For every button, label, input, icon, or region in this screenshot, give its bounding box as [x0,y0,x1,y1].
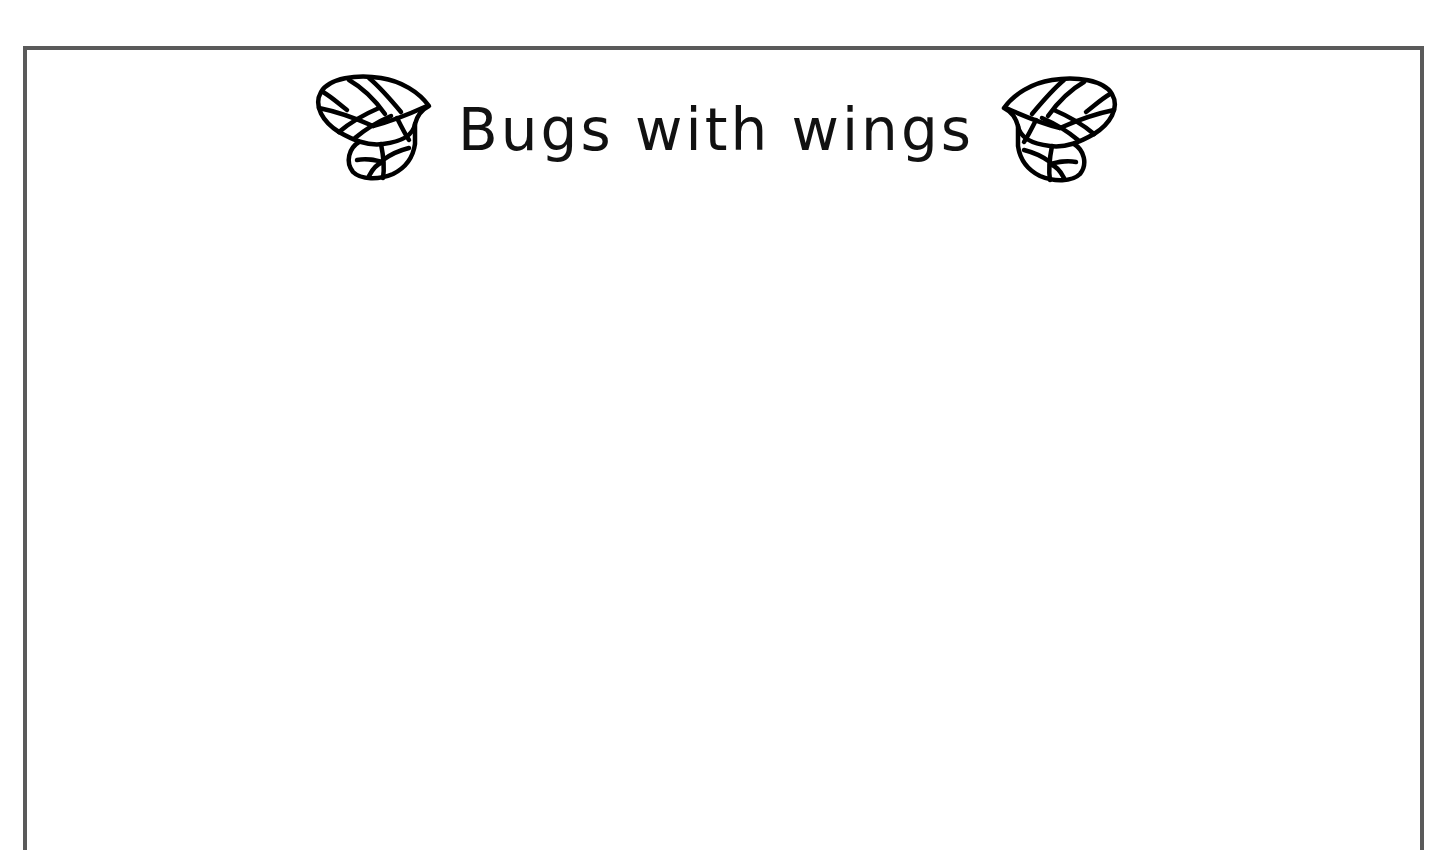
worksheet-header: Bugs with wings [0,70,1449,185]
worksheet-title: Bugs with wings [436,90,996,170]
wing-icon [1000,72,1124,184]
wing-icon [309,70,433,182]
worksheet-body-blank-area [27,200,1416,820]
